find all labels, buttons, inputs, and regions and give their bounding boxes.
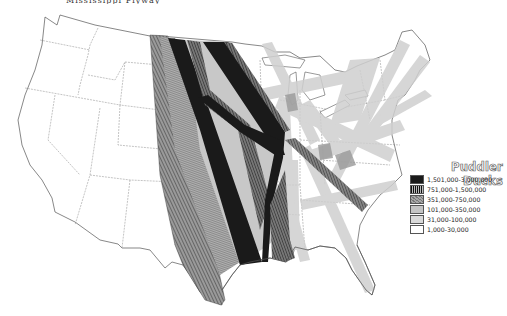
legend-label: 101,000-350,000 [427,206,480,213]
legend-item: 351,000-750,000 [410,194,507,204]
legend-title: Puddler Ducks [410,160,507,174]
swatch-lighter-gray [410,215,424,224]
swatch-light-gray [410,205,424,214]
legend-label: 1,000-30,000 [427,226,469,233]
legend-label: 751,000-1,500,000 [427,186,486,193]
swatch-solid-black [410,175,424,184]
legend-item: 31,000-100,000 [410,214,507,224]
flyway-map [0,0,507,316]
swatch-diagonal-hatch [410,195,424,204]
legend: Puddler Ducks 1,501,000-3,000,000 751,00… [410,160,507,234]
legend-label: 31,000-100,000 [427,216,476,223]
legend-item: 101,000-350,000 [410,204,507,214]
legend-label: 1,501,000-3,000,000 [427,176,492,183]
swatch-white [410,225,424,234]
legend-item: 1,000-30,000 [410,224,507,234]
swatch-vertical-hatch [410,185,424,194]
legend-label: 351,000-750,000 [427,196,480,203]
